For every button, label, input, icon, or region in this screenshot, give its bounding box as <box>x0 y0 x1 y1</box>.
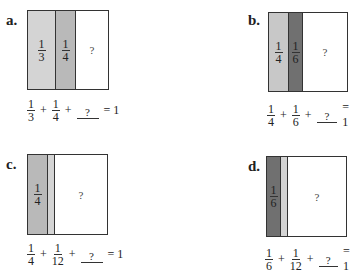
segment-one-third: 13 <box>28 11 56 89</box>
plus-sign: + <box>305 108 312 123</box>
denominator: 4 <box>28 255 34 267</box>
denominator: 6 <box>271 197 277 209</box>
denominator: 6 <box>293 116 299 128</box>
denominator: 4 <box>53 111 59 123</box>
numerator: 1 <box>62 38 70 51</box>
segment-one-fourth: 14 <box>56 11 76 89</box>
equals-one: = 1 <box>342 100 357 130</box>
problem-a-label: a. <box>6 12 17 29</box>
problem-b-equation: 14 + 16 + ? = 1 <box>267 100 359 130</box>
problem-c-fraction-bar: 14 ? <box>27 154 108 235</box>
numerator: 1 <box>292 103 300 116</box>
equals-one: = 1 <box>108 247 124 262</box>
denominator: 4 <box>276 53 282 65</box>
denominator: 4 <box>268 116 274 128</box>
equals-one: = 1 <box>343 244 357 274</box>
segment-unknown: ? <box>76 11 108 89</box>
denominator: 3 <box>28 111 34 123</box>
denominator: 4 <box>63 51 69 63</box>
plus-sign: + <box>69 247 76 262</box>
plus-sign: + <box>307 252 314 267</box>
segment-one-fourth: 14 <box>269 13 289 91</box>
denominator: 6 <box>266 260 272 272</box>
denominator: 6 <box>293 53 299 65</box>
plus-sign: + <box>278 252 285 267</box>
segment-unknown: ? <box>303 13 347 91</box>
plus-sign: + <box>280 108 287 123</box>
segment-one-sixth: 16 <box>289 13 303 91</box>
segment-one-sixth: 16 <box>267 157 281 236</box>
numerator: 1 <box>267 103 275 116</box>
denominator: 3 <box>39 51 45 63</box>
denominator: 4 <box>35 195 41 207</box>
plus-sign: + <box>40 247 47 262</box>
problem-a-equation: 13 + 14 + ? = 1 <box>27 98 121 123</box>
problem-b-fraction-bar: 14 16 ? <box>268 12 348 92</box>
segment-unknown: ? <box>55 155 107 234</box>
denominator: 12 <box>290 260 302 272</box>
plus-sign: + <box>65 103 72 118</box>
problem-c-equation: 14 + 112 + ? = 1 <box>27 242 125 267</box>
segment-one-twelfth <box>48 155 55 234</box>
numerator: 1 <box>292 247 300 260</box>
numerator: 1 <box>265 247 273 260</box>
problem-b-label: b. <box>248 12 260 29</box>
numerator: 1 <box>292 40 300 53</box>
segment-unknown: ? <box>288 157 346 236</box>
equals-one: = 1 <box>104 103 120 118</box>
problem-d-equation: 16 + 112 + ? = 1 <box>265 244 359 274</box>
problem-a-fraction-bar: 13 14 ? <box>27 10 109 90</box>
numerator: 1 <box>275 40 283 53</box>
problem-d-label: d. <box>248 158 260 175</box>
segment-one-fourth: 14 <box>28 155 48 234</box>
answer-blank[interactable]: ? <box>317 111 338 123</box>
numerator: 1 <box>38 38 46 51</box>
answer-blank[interactable]: ? <box>81 251 103 263</box>
problem-c-label: c. <box>6 156 16 173</box>
plus-sign: + <box>40 103 47 118</box>
denominator: 12 <box>52 255 64 267</box>
answer-blank[interactable]: ? <box>77 107 99 119</box>
segment-one-twelfth <box>281 157 288 236</box>
answer-blank[interactable]: ? <box>319 255 338 267</box>
problem-d-fraction-bar: 16 ? <box>266 156 347 237</box>
